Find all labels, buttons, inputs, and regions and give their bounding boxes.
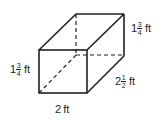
front-face [39, 50, 87, 93]
edge-top-left [39, 14, 76, 50]
label-width: 2 ft [55, 104, 69, 115]
edge-top-right [87, 14, 124, 50]
hidden-edge-diagonal [39, 55, 76, 93]
label-height-right: 1 3 4 ft [131, 21, 151, 36]
rectangular-prism-figure [0, 0, 164, 122]
label-height-left: 1 3 4 ft [10, 62, 30, 77]
label-depth: 2 1 2 ft [115, 74, 135, 89]
unit: ft [63, 104, 69, 115]
unit: ft [24, 64, 30, 75]
unit: ft [129, 76, 135, 87]
denominator: 4 [138, 29, 142, 36]
numerator: 1 [121, 74, 126, 82]
numerator: 3 [16, 62, 21, 70]
denominator: 4 [17, 70, 21, 77]
denominator: 2 [122, 82, 126, 89]
fraction: 1 2 [121, 74, 126, 89]
width-value: 2 [55, 104, 61, 115]
fraction: 3 4 [16, 62, 21, 77]
fraction: 3 4 [137, 21, 142, 36]
unit: ft [145, 23, 151, 34]
numerator: 3 [137, 21, 142, 29]
